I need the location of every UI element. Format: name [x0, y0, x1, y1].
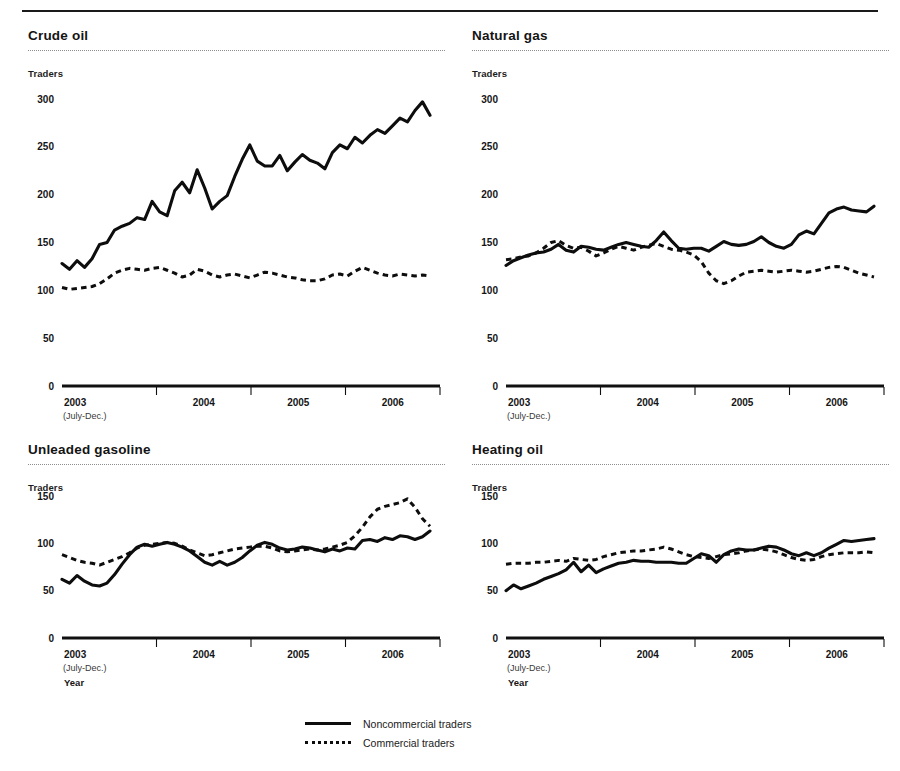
x-axis-tick-label: 2003 [64, 397, 87, 408]
y-axis-tick-label: 100 [481, 285, 498, 296]
x-axis-tick-label: 2006 [382, 649, 405, 660]
x-axis-title: Year [508, 677, 528, 688]
x-axis-tick-label: 2004 [193, 649, 216, 660]
y-axis-tick-label: 300 [37, 94, 54, 105]
y-axis-tick-label: 250 [37, 141, 54, 152]
x-axis-sublabel: (July-Dec.) [507, 411, 551, 421]
chart-legend: Noncommercial traders Commercial traders [305, 714, 605, 752]
y-axis-tick-label: 0 [492, 633, 498, 644]
plot-area: 0501001502003200420052006(July-Dec.)Year [16, 438, 448, 728]
x-axis-tick-label: 2005 [731, 649, 754, 660]
plot-area: 0501001502002503002003200420052006(July-… [16, 24, 448, 424]
x-axis-title: Year [64, 677, 84, 688]
series-noncommercial-traders [62, 102, 430, 269]
y-axis-tick-label: 150 [37, 491, 54, 502]
y-axis-tick-label: 50 [43, 585, 55, 596]
plot-area: 0501001502002503002003200420052006(July-… [460, 24, 892, 424]
y-axis-tick-label: 50 [487, 585, 499, 596]
x-axis-tick-label: 2004 [637, 649, 660, 660]
y-axis-tick-label: 250 [481, 141, 498, 152]
y-axis-tick-label: 150 [481, 491, 498, 502]
y-axis-tick-label: 0 [48, 633, 54, 644]
plot-area: 0501001502003200420052006(July-Dec.)Year [460, 438, 892, 728]
figure-page: Crude oil Traders 0501001502002503002003… [0, 0, 900, 771]
series-commercial-traders [62, 267, 430, 289]
series-noncommercial-traders [62, 531, 430, 586]
x-axis-tick-label: 2004 [637, 397, 660, 408]
series-noncommercial-traders [506, 206, 874, 265]
page-top-rule [22, 10, 878, 12]
legend-label: Commercial traders [363, 737, 455, 749]
x-axis-tick-label: 2005 [287, 649, 310, 660]
y-axis-tick-label: 100 [481, 538, 498, 549]
legend-label: Noncommercial traders [363, 718, 472, 730]
y-axis-tick-label: 150 [37, 237, 54, 248]
x-axis-tick-label: 2005 [287, 397, 310, 408]
x-axis-sublabel: (July-Dec.) [63, 663, 107, 673]
x-axis-tick-label: 2004 [193, 397, 216, 408]
x-axis-tick-label: 2003 [508, 649, 531, 660]
x-axis-tick-label: 2003 [508, 397, 531, 408]
x-axis-sublabel: (July-Dec.) [507, 663, 551, 673]
y-axis-tick-label: 200 [481, 189, 498, 200]
panel-natural-gas: Natural gas Traders 05010015020025030020… [460, 24, 892, 424]
x-axis-tick-label: 2006 [382, 397, 405, 408]
x-axis-tick-label: 2003 [64, 649, 87, 660]
x-axis-tick-label: 2005 [731, 397, 754, 408]
y-axis-tick-label: 50 [43, 333, 55, 344]
y-axis-tick-label: 0 [48, 381, 54, 392]
series-noncommercial-traders [506, 539, 874, 591]
y-axis-tick-label: 300 [481, 94, 498, 105]
y-axis-tick-label: 200 [37, 189, 54, 200]
x-axis-sublabel: (July-Dec.) [63, 411, 107, 421]
y-axis-tick-label: 100 [37, 538, 54, 549]
y-axis-tick-label: 150 [481, 237, 498, 248]
y-axis-tick-label: 0 [492, 381, 498, 392]
legend-swatch-solid-icon [305, 722, 351, 725]
legend-swatch-dotted-icon [305, 741, 351, 744]
panel-crude-oil: Crude oil Traders 0501001502002503002003… [16, 24, 448, 424]
x-axis-tick-label: 2006 [826, 397, 849, 408]
legend-item: Commercial traders [305, 733, 605, 752]
y-axis-tick-label: 50 [487, 333, 499, 344]
y-axis-tick-label: 100 [37, 285, 54, 296]
x-axis-tick-label: 2006 [826, 649, 849, 660]
legend-item: Noncommercial traders [305, 714, 605, 733]
